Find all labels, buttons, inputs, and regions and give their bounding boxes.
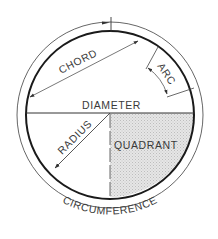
arc-label: ARC (155, 60, 178, 87)
chord-label: CHORD (56, 46, 98, 76)
circumference-label-path: CIRCUMFERENCE (61, 193, 159, 216)
radius-label: RADIUS (55, 117, 94, 156)
diagram-canvas: CHORD ARC DIAMETER RADIUS QUADRANT CIRCU… (0, 0, 218, 239)
circumference-label: CIRCUMFERENCE (61, 193, 159, 216)
quadrant-region (110, 113, 194, 197)
circle-parts-diagram: CHORD ARC DIAMETER RADIUS QUADRANT CIRCU… (0, 0, 218, 239)
chord-line (30, 41, 138, 97)
diameter-label: DIAMETER (82, 99, 141, 111)
quadrant-label: QUADRANT (114, 139, 178, 151)
